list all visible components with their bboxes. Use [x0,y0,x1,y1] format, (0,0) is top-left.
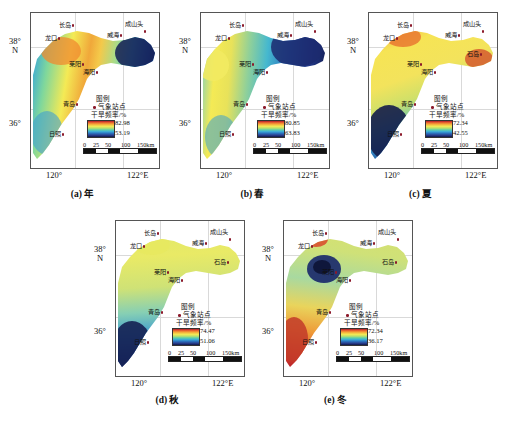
colorbar-max-d: 74.47 [200,327,215,335]
colorbar-e [340,328,368,346]
station-chengshantou-b: 成山头 [295,19,313,28]
station-shidao-e: 石岛 [382,257,397,266]
station-longkou-e: 龙口 [298,241,313,250]
station-qingdao-d: 青岛 [148,307,163,316]
colorbar-a [87,120,115,138]
lat-label-38-e: 38°N [255,245,281,263]
colorbar-c [425,120,453,138]
station-dot-icon-d [178,314,181,317]
panel-caption-c: (c) 夏 [338,186,503,200]
station-longkou-d: 龙口 [130,241,145,250]
map-frame-b: 长岛 成山头 龙口 威海 莱阳 海阳 青岛 日照 图例 气象站点 干旱频率/% … [200,12,330,169]
lat-label-38-b: 38°N [172,37,198,55]
map-legend-c: 图例 气象站点 干旱频率/% 72.34 42.55 [425,95,495,138]
scalebar-d: 0 25 50 100 150km [168,349,242,362]
station-chengshantou-dot-e [396,235,399,242]
colorbar-max-a: 82.98 [115,119,130,127]
station-chengshantou-dot-c [481,27,484,34]
map-legend-b: 图例 气象站点 干旱频率/% 80.85 63.83 [257,95,327,138]
colorbar-b [257,120,285,138]
legend-title-c: 图例 [425,95,495,103]
station-qingdao: 青岛 [63,99,78,108]
lat-label-36-e: 36° [255,327,281,336]
lon-label-122-d: 122°E [212,378,233,388]
lon-label-120-e: 120° [299,378,315,388]
lon-label-120-a: 120° [46,170,62,180]
panel-d: 38°N 36° [85,212,250,412]
colorbar-min-d: 51.06 [200,337,215,345]
station-weihai: 威海 [107,30,122,39]
station-chengshantou-c: 成山头 [463,19,481,28]
colorbar-wrap-b: 80.85 63.83 [257,120,327,138]
station-qingdao-e: 青岛 [316,307,331,316]
station-rizhao-b: 日照 [219,129,234,138]
station-rizhao-c: 日照 [387,129,402,138]
station-haiyang-e: 海阳 [336,275,351,284]
station-shidao-d: 石岛 [214,257,229,266]
station-weihai-c: 威海 [445,30,460,39]
station-haiyang-b: 海阳 [253,67,268,76]
colorbar-max-e: 72.34 [368,327,383,335]
station-chengshantou-d: 成山头 [210,227,228,236]
panel-b: 38°N 36° [170,4,335,209]
lat-label-36-c: 36° [340,119,366,128]
station-rizhao-d: 日照 [134,337,149,346]
colorbar-wrap-e: 72.34 36.17 [340,328,410,346]
lon-label-122-b: 122°E [297,170,318,180]
legend-title-e: 图例 [340,303,410,311]
station-haiyang-d: 海阳 [168,275,183,284]
map-legend-d: 图例 气象站点 干旱频率/% 74.47 51.06 [172,303,242,346]
map-frame-d: 长岛 成山头 龙口 威海 石岛 莱阳 海阳 青岛 日照 图例 气象站点 干旱频率… [115,220,245,377]
lon-label-122-c: 122°E [465,170,486,180]
scalebar-c: 0 25 50 100 150km [421,141,495,154]
legend-title-b: 图例 [257,95,327,103]
station-chengshantou-e: 成山头 [378,227,396,236]
panel-c: 38°N 36° [338,4,503,209]
station-chengshantou-dot [143,27,146,34]
panel-caption-d: (d) 秋 [85,392,250,406]
station-weihai-d: 威海 [192,238,207,247]
station-dot-icon-e [346,314,349,317]
station-chengshantou-dot-b [313,27,316,34]
station-chengshantou-dot-d [228,235,231,242]
lon-label-120-b: 120° [216,170,232,180]
station-changdao-d: 长岛 [144,228,159,237]
station-weihai-b: 威海 [277,30,292,39]
station-dot-icon [93,106,96,109]
colorbar-max-c: 72.34 [453,119,468,127]
lat-label-38: 38°N [2,37,28,55]
colorbar-wrap-d: 74.47 51.06 [172,328,242,346]
station-weihai-e: 威海 [360,238,375,247]
panel-caption-e: (e) 冬 [253,392,418,406]
colorbar-wrap-c: 72.34 42.55 [425,120,495,138]
figure-panel-grid: 38°N 36° [0,0,505,426]
colorbar-d [172,328,200,346]
panel-a: 38°N 36° [0,4,165,209]
colorbar-min-b: 63.83 [285,129,300,137]
station-haiyang: 海阳 [83,67,98,76]
panel-e: 38°N 36° [253,212,418,412]
map-frame-a: 长岛 成山头 龙口 威海 莱阳 海阳 青岛 日照 图例 气象站点 干旱频率/% … [30,12,160,169]
lat-label-38-d: 38°N [87,245,113,263]
station-changdao-e: 长岛 [312,228,327,237]
station-longkou-b: 龙口 [215,33,230,42]
figure-bottom-note [18,417,488,425]
station-rizhao-e: 日照 [302,337,317,346]
scalebar-a: 0 25 50 100 150km [83,141,157,154]
station-qingdao-b: 青岛 [233,99,248,108]
station-qingdao-c: 青岛 [401,99,416,108]
lat-label-36: 36° [2,119,28,128]
lat-label-38-c: 38°N [340,37,366,55]
panel-caption-b: (b) 春 [170,186,335,200]
station-changdao: 长岛 [59,20,74,29]
map-legend-a: 图例 气象站点 干旱频率/% 82.98 53.19 [87,95,157,138]
colorbar-min-c: 42.55 [453,129,468,137]
station-shidao-c: 石岛 [467,49,482,58]
lon-label-122-e: 122°E [380,378,401,388]
lat-label-36-b: 36° [172,119,198,128]
station-chengshantou: 成山头 [125,19,143,28]
scalebar-e: 0 25 50 100 150km [336,349,410,362]
colorbar-min-a: 53.19 [115,129,130,137]
legend-title-d: 图例 [172,303,242,311]
legend-title: 图例 [87,95,157,103]
